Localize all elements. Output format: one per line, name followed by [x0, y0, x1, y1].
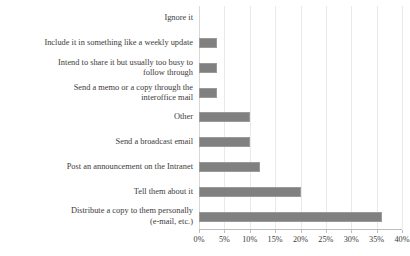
bar-row — [199, 6, 402, 31]
x-axis-tick-labels: 0%5%10%15%20%25%30%35%40% — [0, 234, 410, 248]
category-label: Send a memo or a copy through the intero… — [0, 83, 193, 103]
bar — [199, 137, 250, 147]
x-tick-mark — [301, 230, 302, 233]
x-tick-mark — [351, 230, 352, 233]
x-tick-label: 5% — [219, 234, 230, 245]
x-tick-mark — [250, 230, 251, 233]
bar-row — [199, 179, 402, 204]
x-tick-label: 35% — [369, 234, 384, 245]
category-label: Intend to share it but usually too busy … — [0, 58, 193, 78]
category-label: Post an announcement on the Intranet — [0, 162, 193, 172]
category-label: Other — [0, 112, 193, 122]
x-tick-mark — [326, 230, 327, 233]
category-label: Send a broadcast email — [0, 137, 193, 147]
bar — [199, 38, 217, 48]
x-tick-mark — [377, 230, 378, 233]
bar — [199, 162, 260, 172]
bar-row — [199, 204, 402, 229]
plot-area — [199, 6, 402, 229]
bar-row — [199, 80, 402, 105]
bar-chart: Ignore itInclude it in something like a … — [0, 0, 410, 256]
bar-row — [199, 130, 402, 155]
category-label: Distribute a copy to them personally (e-… — [0, 206, 193, 226]
x-tick-label: 40% — [394, 234, 409, 245]
bar-row — [199, 56, 402, 81]
category-label: Tell them about it — [0, 187, 193, 197]
x-tick-mark — [224, 230, 225, 233]
bar-row — [199, 155, 402, 180]
bar-row — [199, 105, 402, 130]
bar — [199, 88, 217, 98]
bar — [199, 112, 250, 122]
x-tick-label: 10% — [242, 234, 257, 245]
category-label: Include it in something like a weekly up… — [0, 38, 193, 48]
x-tick-label: 0% — [194, 234, 205, 245]
bar-series — [199, 6, 402, 229]
category-axis-labels: Ignore itInclude it in something like a … — [0, 6, 193, 229]
bar-row — [199, 31, 402, 56]
gridline-40% — [402, 6, 403, 229]
x-tick-label: 25% — [318, 234, 333, 245]
x-tick-label: 15% — [268, 234, 283, 245]
x-tick-mark — [402, 230, 403, 233]
x-tick-label: 30% — [344, 234, 359, 245]
x-tick-mark — [199, 230, 200, 233]
x-tick-mark — [275, 230, 276, 233]
x-tick-label: 20% — [293, 234, 308, 245]
category-label: Ignore it — [0, 13, 193, 23]
bar — [199, 187, 301, 197]
bar — [199, 212, 382, 222]
bar — [199, 63, 217, 73]
